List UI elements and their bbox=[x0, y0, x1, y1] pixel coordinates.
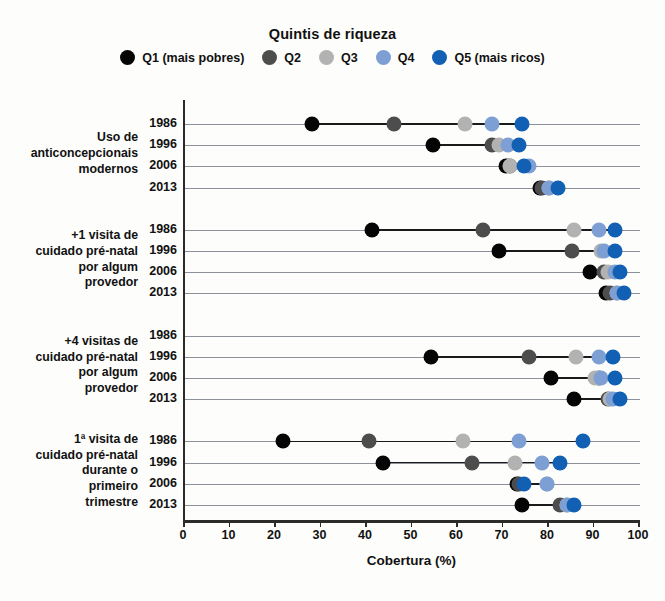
data-point-q2 bbox=[564, 244, 579, 259]
data-point-q1 bbox=[375, 455, 390, 470]
data-point-q5 bbox=[607, 244, 622, 259]
year-label-2013: 2013 bbox=[133, 497, 177, 511]
data-point-q1 bbox=[567, 392, 582, 407]
data-point-q1 bbox=[544, 371, 559, 386]
data-point-q5 bbox=[553, 455, 568, 470]
data-point-q3 bbox=[507, 455, 522, 470]
data-point-q3 bbox=[457, 117, 472, 132]
data-point-q4 bbox=[539, 476, 554, 491]
data-point-q1 bbox=[514, 498, 529, 513]
gridline bbox=[185, 484, 640, 485]
x-tick-label: 90 bbox=[573, 528, 613, 542]
data-point-q1 bbox=[305, 117, 320, 132]
data-point-q5 bbox=[576, 434, 591, 449]
x-axis-title: Cobertura (%) bbox=[183, 553, 640, 568]
x-tick-label: 20 bbox=[254, 528, 294, 542]
chart-plot: 0102030405060708090100 Cobertura (%) 198… bbox=[0, 0, 665, 601]
group-label-3: 1ª visita decuidado pré-nataldurante opr… bbox=[0, 432, 138, 511]
group-label-1: +1 visita decuidado pré-natalpor algumpr… bbox=[0, 228, 138, 291]
x-tick-label: 0 bbox=[163, 528, 203, 542]
gridline bbox=[185, 145, 640, 146]
data-point-q1 bbox=[491, 244, 506, 259]
year-label-1986: 1986 bbox=[133, 328, 177, 342]
data-point-q1 bbox=[425, 138, 440, 153]
group-label-0: Uso deanticoncepcionaismodernos bbox=[0, 130, 138, 177]
year-label-1996: 1996 bbox=[133, 243, 177, 257]
data-point-q5 bbox=[617, 286, 632, 301]
data-point-q3 bbox=[567, 222, 582, 237]
year-label-2013: 2013 bbox=[133, 285, 177, 299]
data-point-q1 bbox=[364, 222, 379, 237]
year-label-2013: 2013 bbox=[133, 180, 177, 194]
data-point-q5 bbox=[567, 498, 582, 513]
data-point-q5 bbox=[516, 159, 531, 174]
gridline bbox=[185, 188, 640, 189]
x-tick-label: 50 bbox=[391, 528, 431, 542]
data-point-q5 bbox=[514, 117, 529, 132]
data-point-q2 bbox=[464, 455, 479, 470]
x-tick bbox=[456, 520, 458, 527]
data-point-q4 bbox=[592, 222, 607, 237]
data-point-q1 bbox=[423, 349, 438, 364]
data-point-q5 bbox=[512, 138, 527, 153]
x-tick bbox=[229, 520, 231, 527]
plot-area bbox=[183, 100, 638, 520]
data-point-q2 bbox=[521, 349, 536, 364]
data-point-q5 bbox=[607, 371, 622, 386]
group-label-2: +4 visitas decuidado pré-natalpor algump… bbox=[0, 334, 138, 397]
year-label-2006: 2006 bbox=[133, 370, 177, 384]
x-tick bbox=[411, 520, 413, 527]
data-point-q2 bbox=[476, 222, 491, 237]
data-point-q4 bbox=[512, 434, 527, 449]
year-label-2006: 2006 bbox=[133, 264, 177, 278]
data-point-q4 bbox=[485, 117, 500, 132]
data-point-q3 bbox=[569, 349, 584, 364]
year-label-1996: 1996 bbox=[133, 349, 177, 363]
data-point-q5 bbox=[605, 349, 620, 364]
data-point-q2 bbox=[362, 434, 377, 449]
data-point-q2 bbox=[387, 117, 402, 132]
year-label-2013: 2013 bbox=[133, 391, 177, 405]
x-tick-label: 100 bbox=[618, 528, 658, 542]
x-tick bbox=[638, 520, 640, 527]
data-point-q5 bbox=[612, 392, 627, 407]
gridline bbox=[185, 293, 640, 294]
data-point-q5 bbox=[516, 476, 531, 491]
year-label-1986: 1986 bbox=[133, 116, 177, 130]
data-point-q5 bbox=[607, 222, 622, 237]
data-point-q5 bbox=[551, 180, 566, 195]
x-tick bbox=[183, 520, 185, 527]
range-connector bbox=[283, 441, 583, 443]
year-label-1986: 1986 bbox=[133, 433, 177, 447]
x-tick bbox=[274, 520, 276, 527]
x-tick-label: 10 bbox=[209, 528, 249, 542]
x-tick-label: 30 bbox=[300, 528, 340, 542]
x-tick-label: 70 bbox=[482, 528, 522, 542]
x-tick bbox=[593, 520, 595, 527]
data-point-q3 bbox=[455, 434, 470, 449]
year-label-2006: 2006 bbox=[133, 158, 177, 172]
gridline bbox=[185, 272, 640, 273]
data-point-q5 bbox=[612, 265, 627, 280]
data-point-q4 bbox=[535, 455, 550, 470]
x-tick-label: 40 bbox=[345, 528, 385, 542]
x-tick bbox=[547, 520, 549, 527]
year-label-1996: 1996 bbox=[133, 455, 177, 469]
x-tick-label: 60 bbox=[436, 528, 476, 542]
x-tick bbox=[320, 520, 322, 527]
year-label-1996: 1996 bbox=[133, 137, 177, 151]
year-label-1986: 1986 bbox=[133, 222, 177, 236]
gridline bbox=[185, 336, 640, 337]
x-tick-label: 80 bbox=[527, 528, 567, 542]
x-tick bbox=[365, 520, 367, 527]
gridline bbox=[185, 166, 640, 167]
data-point-q1 bbox=[275, 434, 290, 449]
x-tick bbox=[502, 520, 504, 527]
year-label-2006: 2006 bbox=[133, 476, 177, 490]
